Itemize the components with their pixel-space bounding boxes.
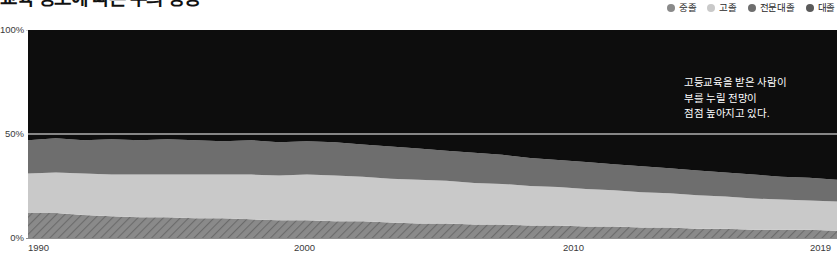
legend-dot-icon (707, 4, 715, 12)
legend-label: 고졸 (719, 3, 736, 13)
stacked-area-chart: 100% 50% 0% 고등교육을 받은 사람이 부를 누릴 전망이 점점 높아… (0, 18, 837, 258)
x-axis-tick-2019: 2019 (810, 242, 831, 253)
legend-label: 전문대졸 (760, 3, 795, 13)
x-axis-tick-2010: 2010 (563, 242, 584, 253)
plot-area (28, 30, 837, 238)
legend-dot-icon (667, 4, 675, 12)
chart-screenshot: 교육 정도에 따른 부의 상승 중졸 고졸 전문대졸 대졸 100% 50% 0… (0, 0, 837, 258)
gridline-0 (26, 238, 837, 239)
chart-annotation: 고등교육을 받은 사람이 부를 누릴 전망이 점점 높아지고 있다. (684, 75, 786, 122)
y-axis-tick-50: 50% (0, 129, 24, 139)
legend-label: 대졸 (818, 3, 835, 13)
x-axis-tick-2000: 2000 (294, 242, 315, 253)
x-axis-tick-1990: 1990 (28, 242, 49, 253)
legend-label: 중졸 (679, 3, 696, 13)
y-axis-tick-0: 0% (0, 233, 24, 243)
legend-item-college[interactable]: 대졸 (806, 3, 835, 13)
legend-dot-icon (806, 4, 814, 12)
annotation-line-1: 고등교육을 받은 사람이 (684, 75, 786, 91)
legend-item-junior-college[interactable]: 전문대졸 (748, 3, 795, 13)
legend-item-middle-school[interactable]: 중졸 (667, 3, 696, 13)
annotation-line-2: 부를 누릴 전망이 (684, 91, 786, 107)
page-title: 교육 정도에 따른 부의 상승 (0, 0, 201, 10)
legend-item-high-school[interactable]: 고졸 (707, 3, 736, 13)
legend-dot-icon (748, 4, 756, 12)
area-series-svg (28, 30, 837, 238)
y-axis-tick-100: 100% (0, 25, 24, 35)
annotation-line-3: 점점 높아지고 있다. (684, 106, 786, 122)
chart-legend: 중졸 고졸 전문대졸 대졸 (667, 1, 835, 15)
